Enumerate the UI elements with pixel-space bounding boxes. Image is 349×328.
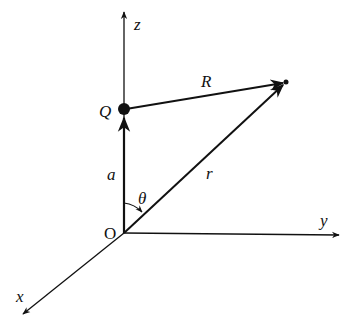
vector-r [124, 85, 283, 233]
charge-label: Q [99, 102, 111, 121]
origin-label: O [104, 224, 116, 243]
angle-theta-label: θ [138, 189, 146, 208]
y-axis [124, 233, 339, 235]
z-axis-label: z [133, 15, 141, 34]
vector-a-label: a [107, 165, 116, 184]
charge-dot [118, 103, 130, 115]
y-axis-label: y [318, 211, 328, 230]
x-axis-label: x [15, 287, 24, 306]
coordinate-diagram: z y x O Q a R r θ [0, 0, 349, 328]
x-axis [23, 233, 124, 314]
field-point [284, 80, 289, 85]
vector-R-label: R [200, 72, 212, 91]
vector-r-label: r [206, 164, 213, 183]
